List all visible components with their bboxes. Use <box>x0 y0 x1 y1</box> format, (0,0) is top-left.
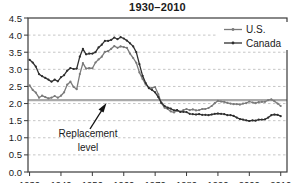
canada-series-line-marker <box>277 114 279 116</box>
canada-series-line-marker <box>101 44 103 46</box>
us-series-line-marker <box>198 109 200 111</box>
canada-series-line-marker <box>135 51 137 53</box>
us-series-line-marker <box>201 108 203 110</box>
canada-series-line-marker <box>104 40 106 42</box>
us-series-line-marker <box>233 103 235 105</box>
canada-series-line-marker <box>167 107 169 109</box>
canada-series-line-marker <box>236 117 238 119</box>
canada-series-line-marker <box>255 120 257 122</box>
us-series-line-marker <box>223 101 225 103</box>
us-series-line-marker <box>82 62 84 64</box>
canada-series-line-marker <box>201 114 203 116</box>
us-series-line-marker <box>239 104 241 106</box>
y-tick-label: 0.0 <box>9 167 22 178</box>
canada-series-line-marker <box>189 113 191 115</box>
us-series-line-marker <box>101 56 103 58</box>
x-tick-label: 1970 <box>145 179 166 183</box>
canada-series-line-marker <box>273 113 275 115</box>
us-series-line-marker <box>72 86 74 88</box>
canada-series-line-marker <box>211 113 213 115</box>
us-series-line-marker <box>47 97 49 99</box>
canada-series-line-marker <box>157 96 159 98</box>
canada-series-line-marker <box>29 59 31 61</box>
canada-series-line-marker <box>151 89 153 91</box>
x-tick-label: 2010 <box>270 179 291 183</box>
us-series-line-marker <box>113 45 115 47</box>
us-series-line-marker <box>270 98 272 100</box>
us-series-line-marker <box>189 109 191 111</box>
canada-series-line-marker <box>233 115 235 117</box>
canada-series-line-marker <box>182 111 184 113</box>
canada-series-line-marker <box>154 91 156 93</box>
canada-series-line-marker <box>110 39 112 41</box>
us-series-line-marker <box>60 95 62 97</box>
canada-series-line-marker <box>116 38 118 40</box>
canada-series-line-marker <box>142 75 144 77</box>
us-series-line-marker <box>98 58 100 60</box>
legend-canada-marker <box>232 42 235 45</box>
canada-series-line-marker <box>85 53 87 55</box>
canada-series-line-marker <box>214 113 216 115</box>
canada-series-line-marker <box>38 73 40 75</box>
canada-series-line-marker <box>107 40 109 42</box>
canada-series-line-marker <box>35 66 37 68</box>
us-series-line-marker <box>76 88 78 90</box>
us-series-line-marker <box>185 108 187 110</box>
us-series-line-marker <box>132 57 134 59</box>
us-series-line-marker <box>211 105 213 107</box>
y-tick-label: 2.5 <box>9 81 22 92</box>
us-series-line-marker <box>138 71 140 73</box>
us-series-line-marker <box>267 99 269 101</box>
canada-series-line-marker <box>69 67 71 69</box>
canada-series-line-marker <box>264 118 266 120</box>
us-series-line-marker <box>63 91 65 93</box>
fertility-line-chart: 0.00.51.01.52.02.53.03.54.04.51930194019… <box>0 0 293 183</box>
canada-series-line-marker <box>217 112 219 114</box>
x-tick-label: 2000 <box>239 179 260 183</box>
canada-series-line-marker <box>57 80 59 82</box>
legend-us-label: U.S. <box>246 24 265 35</box>
canada-series-line-marker <box>192 113 194 115</box>
us-series-line-marker <box>120 45 122 47</box>
y-tick-label: 4.5 <box>9 13 22 24</box>
annotation-arrowhead-icon <box>99 103 107 113</box>
canada-series-line-marker <box>173 109 175 111</box>
canada-series-line-marker <box>245 119 247 121</box>
us-series-line-marker <box>38 97 40 99</box>
canada-series-line-marker <box>242 119 244 121</box>
us-series-line-marker <box>107 50 109 52</box>
us-series-line-marker <box>255 102 257 104</box>
canada-series-line-marker <box>145 82 147 84</box>
canada-series-line-marker <box>226 114 228 116</box>
x-tick-label: 1940 <box>50 179 71 183</box>
us-series-line-marker <box>242 103 244 105</box>
us-series-line-marker <box>258 101 260 103</box>
canada-series-line-marker <box>60 76 62 78</box>
y-tick-label: 1.0 <box>9 132 22 143</box>
canada-series-line-marker <box>280 115 282 117</box>
replacement-annotation-line1: Replacement <box>59 128 118 139</box>
us-series-line-marker <box>226 102 228 104</box>
canada-series-line-marker <box>220 113 222 115</box>
us-series-line-marker <box>248 100 250 102</box>
canada-series-line-marker <box>132 45 134 47</box>
canada-series-line-marker <box>120 36 122 38</box>
y-tick-label: 1.5 <box>9 115 22 126</box>
us-series-line-marker <box>277 103 279 105</box>
us-series-line-marker <box>66 84 68 86</box>
us-series-line-marker <box>54 95 56 97</box>
y-tick-label: 3.0 <box>9 64 22 75</box>
us-series-line-marker <box>104 51 106 53</box>
us-series-line-marker <box>245 102 247 104</box>
canada-series-line-marker <box>123 37 125 39</box>
canada-series-line-marker <box>258 119 260 121</box>
us-series-line-marker <box>29 84 31 86</box>
canada-series-line-marker <box>261 119 263 121</box>
y-tick-label: 4.0 <box>9 30 22 41</box>
canada-series-line-marker <box>63 74 65 76</box>
canada-series-line-marker <box>94 51 96 53</box>
canada-series-line-marker <box>88 53 90 55</box>
canada-series-line-marker <box>160 102 162 104</box>
us-series-line-marker <box>123 46 125 48</box>
canada-series-line-marker <box>41 75 43 77</box>
